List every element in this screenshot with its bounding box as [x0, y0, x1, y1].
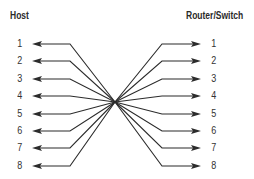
host-wire-3: [38, 79, 115, 102]
switch-wire-6: [115, 102, 195, 131]
switch-wire-4: [115, 96, 195, 102]
host-wire-5: [38, 102, 115, 114]
switch-wire-3: [115, 79, 195, 102]
host-wire-1: [38, 44, 115, 102]
switch-wire-8: [115, 102, 195, 166]
host-wire-8: [38, 102, 115, 166]
host-wire-6: [38, 102, 115, 131]
host-wire-4: [38, 96, 115, 102]
crossover-wiring-diagram: [0, 0, 254, 179]
switch-wire-1: [115, 44, 195, 102]
switch-wire-5: [115, 102, 195, 114]
